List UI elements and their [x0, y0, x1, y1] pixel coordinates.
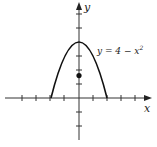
equation-label: y = 4 − x2: [96, 44, 143, 56]
equation-exponent: 2: [138, 44, 143, 51]
x-axis-label: x: [144, 102, 151, 115]
equation-main: y = 4 − x: [96, 46, 139, 56]
y-axis-arrow-icon: [76, 2, 82, 10]
x-axis-arrow-icon: [144, 95, 152, 101]
centroid-point: [76, 73, 81, 78]
parabola-plot: y x y = 4 − x2: [0, 0, 157, 147]
y-axis-label: y: [83, 1, 91, 14]
